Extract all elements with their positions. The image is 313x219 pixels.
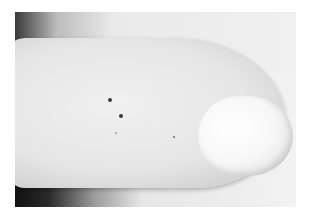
skin-spot	[173, 136, 175, 138]
skin-spot	[115, 132, 117, 134]
fingernail	[198, 96, 293, 176]
skin-spot	[119, 114, 123, 118]
skin-spot	[108, 98, 112, 102]
finger-photograph	[15, 12, 296, 207]
